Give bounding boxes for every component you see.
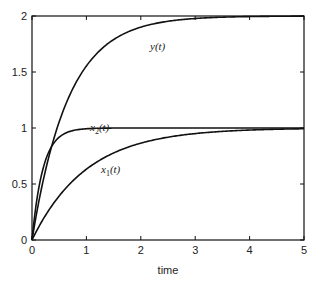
x2-curve	[32, 128, 304, 240]
chart: 01234500.511.52time y(t)x2(t)x1(t)	[0, 0, 316, 283]
y-tick-label: 0.5	[12, 178, 27, 190]
curves	[32, 16, 304, 240]
x-tick-label: 0	[29, 244, 35, 256]
curve-label: x1(t)	[100, 163, 121, 178]
x1-curve	[32, 129, 304, 240]
x-tick-label: 2	[138, 244, 144, 256]
y-tick-label: 1.5	[12, 66, 27, 78]
y-tick-label: 2	[21, 10, 27, 22]
x-tick-label: 3	[192, 244, 198, 256]
x-tick-label: 4	[247, 244, 253, 256]
y-tick-label: 1	[21, 122, 27, 134]
curve-labels: y(t)x2(t)x1(t)	[89, 40, 166, 178]
x-axis-label: time	[158, 264, 179, 276]
x-tick-label: 1	[83, 244, 89, 256]
x-tick-label: 5	[301, 244, 307, 256]
curve-label: x2(t)	[89, 121, 110, 136]
y-tick-label: 0	[21, 234, 27, 246]
curve-label: y(t)	[149, 40, 166, 53]
